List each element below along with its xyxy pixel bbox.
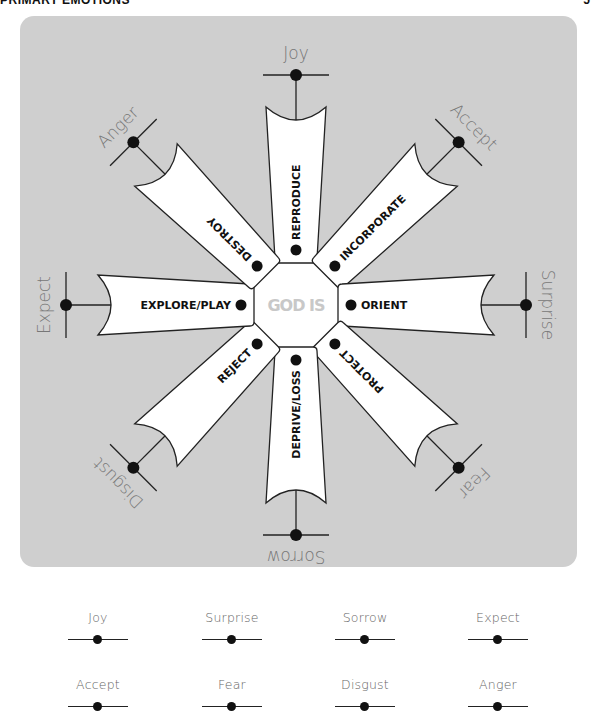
arm-dot-icon xyxy=(346,300,357,311)
scale-icon xyxy=(468,700,528,712)
marker-dot-icon xyxy=(60,299,72,311)
legend-label: Joy xyxy=(53,610,143,625)
arm-emotion-label: Surprise xyxy=(538,270,558,340)
marker-dot-icon xyxy=(520,299,532,311)
arm-dot-icon xyxy=(236,300,247,311)
arm-anger: DESTROYAnger xyxy=(87,96,289,298)
legend-label: Expect xyxy=(453,610,543,625)
arm-function-label: DEPRIVE/LOSS xyxy=(290,370,303,459)
marker-stem xyxy=(427,142,459,174)
arm-function-label: REPRODUCE xyxy=(290,164,303,240)
legend-item-fear: Fear xyxy=(187,677,277,712)
legend-label: Surprise xyxy=(187,610,277,625)
scale-icon xyxy=(335,700,395,712)
scale-icon xyxy=(202,633,262,645)
scale-icon xyxy=(202,700,262,712)
legend-item-expect: Expect xyxy=(453,610,543,645)
arm-surprise: ORIENTSurprise xyxy=(338,270,558,340)
arm-function-label: ORIENT xyxy=(361,299,408,312)
marker-stem xyxy=(427,436,459,468)
legend-item-sorrow: Sorrow xyxy=(320,610,410,645)
legend-label: Sorrow xyxy=(320,610,410,625)
emotion-wheel: REPRODUCEJoyINCORPORATEAcceptORIENTSurpr… xyxy=(0,0,596,580)
arm-expect: EXPLORE/PLAYExpect xyxy=(34,272,254,338)
arm-accept: INCORPORATEAccept xyxy=(302,96,504,298)
arm-fear: PROTECTFear xyxy=(302,311,504,513)
legend-item-accept: Accept xyxy=(53,677,143,712)
arm-emotion-label: Joy xyxy=(283,43,308,63)
legend-item-anger: Anger xyxy=(453,677,543,712)
arm-dot-icon xyxy=(291,245,302,256)
scale-icon xyxy=(68,700,128,712)
legend-item-surprise: Surprise xyxy=(187,610,277,645)
marker-dot-icon xyxy=(290,529,302,541)
arm-function-label: EXPLORE/PLAY xyxy=(140,299,232,312)
emotion-legend: Joy Surprise Sorrow Expect Accept Fear D… xyxy=(0,580,596,724)
legend-item-disgust: Disgust xyxy=(320,677,410,712)
legend-label: Disgust xyxy=(320,677,410,692)
marker-stem xyxy=(133,436,165,468)
arm-emotion-label: Expect xyxy=(34,276,54,334)
arm-dot-icon xyxy=(291,355,302,366)
arm-disgust: REJECTDisgust xyxy=(87,311,289,513)
scale-icon xyxy=(468,633,528,645)
arm-emotion-label: Sorrow xyxy=(266,547,325,567)
marker-dot-icon xyxy=(290,69,302,81)
legend-label: Accept xyxy=(53,677,143,692)
scale-icon xyxy=(335,633,395,645)
marker-stem xyxy=(133,142,165,174)
arm-sorrow: DEPRIVE/LOSSSorrow xyxy=(263,347,329,567)
legend-label: Anger xyxy=(453,677,543,692)
legend-item-joy: Joy xyxy=(53,610,143,645)
scale-icon xyxy=(68,633,128,645)
arm-joy: REPRODUCEJoy xyxy=(263,43,329,263)
center-label: GOD IS xyxy=(267,296,325,315)
legend-label: Fear xyxy=(187,677,277,692)
